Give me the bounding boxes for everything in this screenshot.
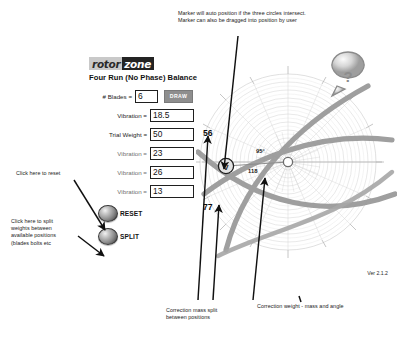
vibration3-label: Vibration =	[89, 169, 147, 176]
control-panel: rotor zone Four Run (No Phase) Balance #…	[89, 57, 211, 245]
vibration4-label: Vibration =	[89, 188, 147, 195]
field-row-trial-weight: Trial Weight = 50	[89, 127, 211, 141]
field-row-vibration-3: Vibration = 26	[89, 165, 211, 179]
annotation-bottom-left: Correction mass split between positions	[166, 307, 252, 321]
field-row-vibration-1: Vibration = 18.5	[89, 108, 211, 122]
svg-text:?: ?	[343, 68, 352, 85]
blades-label: # Blades =	[89, 93, 132, 100]
polar-chart-canvas[interactable]: V ?	[196, 44, 397, 272]
logo-text-zone: zone	[122, 57, 154, 70]
chart-readout-angle-a: 95°	[256, 148, 265, 154]
leader-correction-tick	[299, 296, 301, 302]
split-button-label: SPLIT	[120, 233, 139, 240]
split-ball-icon	[98, 228, 118, 245]
trial-weight-label: Trial Weight =	[89, 131, 147, 138]
vibration1-input[interactable]: 18.5	[150, 109, 194, 122]
annotation-bottom-right: Correction weight - mass and angle	[257, 303, 381, 310]
app-logo: rotor zone	[89, 57, 157, 70]
app-window: V ? 56 77 95° 118 Ver 2.1.2 rotor zone F…	[0, 0, 397, 339]
reset-button-label: RESET	[120, 210, 142, 217]
annotation-top: Marker will auto position if the three c…	[178, 10, 350, 24]
vibration1-label: Vibration =	[89, 112, 147, 119]
reset-button[interactable]: RESET	[98, 205, 211, 222]
vibration2-input[interactable]: 23	[150, 147, 194, 160]
vibration3-input[interactable]: 26	[150, 166, 194, 179]
vibration4-input[interactable]: 13	[150, 185, 194, 198]
trial-weight-input[interactable]: 50	[150, 128, 194, 141]
position-marker[interactable]: V	[218, 158, 233, 173]
svg-text:V: V	[223, 163, 229, 172]
chart-readout-angle-b: 118	[248, 168, 257, 174]
annotation-reset-hint: Click here to reset	[16, 170, 88, 177]
annotation-split-hint: Click here to split weights between avai…	[11, 218, 87, 247]
draw-button[interactable]: DRAW	[164, 90, 193, 103]
field-row-vibration-2: Vibration = 23	[89, 146, 211, 160]
center-hub	[283, 157, 292, 166]
field-row-blades: # Blades = 6 DRAW	[89, 89, 211, 103]
blades-input[interactable]: 6	[135, 90, 158, 103]
page-title: Four Run (No Phase) Balance	[89, 73, 211, 82]
field-row-vibration-4: Vibration = 13	[89, 184, 211, 198]
reset-ball-icon	[98, 205, 118, 222]
logo-text-rotor: rotor	[89, 57, 122, 70]
vibration2-label: Vibration =	[89, 150, 147, 157]
polar-chart[interactable]: V ? 56 77 95° 118	[196, 44, 397, 272]
version-label: Ver 2.1.2	[367, 270, 388, 276]
split-button[interactable]: SPLIT	[98, 228, 211, 245]
